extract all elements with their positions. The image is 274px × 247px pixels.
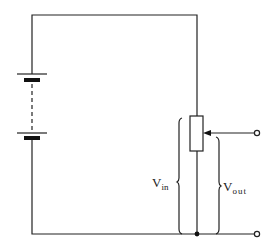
vin-brace xyxy=(177,118,182,234)
bottom-wire xyxy=(32,140,254,234)
battery-negative-plate-top xyxy=(24,78,40,82)
potentiometer-body xyxy=(190,116,203,151)
vout-brace xyxy=(216,137,221,234)
output-terminal-bottom xyxy=(254,231,259,236)
vout-label: Vout xyxy=(223,179,247,196)
potential-divider-diagram: Vin Vout xyxy=(0,0,274,247)
junction-dot xyxy=(195,232,200,237)
battery-negative-plate-bottom xyxy=(24,136,40,140)
wiper-arrow-icon xyxy=(203,130,211,136)
vin-label: Vin xyxy=(152,175,169,192)
top-wire xyxy=(32,15,197,116)
output-terminal-top xyxy=(254,130,259,135)
